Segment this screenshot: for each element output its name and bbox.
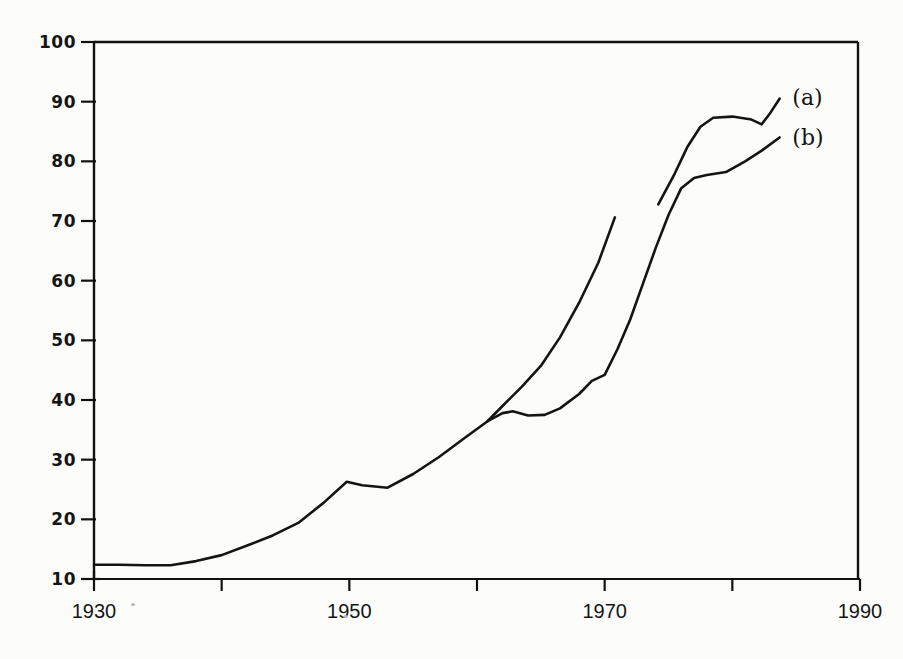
x-axis-ticks [94, 571, 860, 591]
y-axis-tick-label: 80 [14, 151, 76, 171]
y-axis-tick-label: 90 [14, 92, 76, 112]
y-axis-tick-label: 30 [14, 450, 76, 470]
y-axis-tick-label: 20 [14, 509, 76, 529]
x-axis-tick-label: 1950 [327, 600, 372, 623]
series-label-a: (a) [792, 84, 822, 109]
y-axis-tick-label: 10 [14, 569, 76, 589]
series-label-b: (b) [792, 125, 823, 150]
y-axis-tick-label: 50 [14, 330, 76, 350]
y-axis-tick-label: 70 [14, 211, 76, 231]
data-series-line [487, 137, 779, 421]
scan-speck [343, 615, 348, 618]
scan-speck [131, 603, 135, 606]
chart-plot-area [0, 0, 903, 659]
data-series-group [94, 99, 780, 566]
data-series-line [94, 217, 615, 565]
y-axis-tick-label: 60 [14, 271, 76, 291]
chart-figure: 102030405060708090100 1930195019701990 (… [0, 0, 903, 659]
y-axis-ticks [81, 42, 100, 579]
x-axis-tick-label: 1970 [582, 600, 627, 623]
axis-frame [94, 42, 860, 580]
x-axis-tick-label: 1930 [72, 600, 117, 623]
x-axis-tick-label: 1990 [838, 600, 883, 623]
y-axis-tick-label: 100 [14, 32, 76, 52]
y-axis-tick-label: 40 [14, 390, 76, 410]
